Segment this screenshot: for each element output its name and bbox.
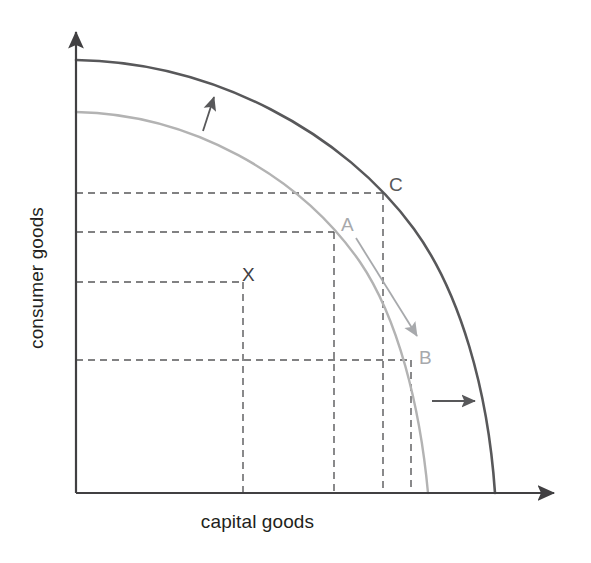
growth-arrow-up-icon	[203, 97, 214, 131]
y-axis-title: consumer goods	[26, 148, 48, 408]
ppf-chart-canvas	[0, 0, 591, 563]
point-label-c: C	[389, 174, 403, 196]
point-label-x: X	[242, 264, 255, 286]
x-axis-title: capital goods	[0, 511, 515, 533]
point-label-b: B	[419, 347, 432, 369]
outer-ppf-curve	[76, 60, 495, 493]
axis-lines	[76, 32, 554, 493]
guide-lines	[76, 193, 411, 493]
ppf-chart: consumer goods capital goods C A B X	[0, 0, 591, 563]
point-label-a: A	[341, 214, 354, 236]
movement-arrow-a-to-b-icon	[356, 238, 417, 336]
inner-ppf-curve	[76, 112, 428, 493]
annotation-arrows	[203, 97, 475, 401]
